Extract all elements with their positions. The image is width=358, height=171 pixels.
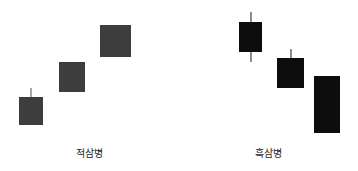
candlestick-pattern-figure: 적삼병 흑삼병 — [0, 0, 358, 171]
candle-three-black-crows-1 — [239, 12, 262, 62]
pattern-label-three-white-soldiers: 적삼병 — [0, 147, 179, 160]
candle-three-black-crows-2 — [277, 49, 304, 88]
pattern-group-three-black-crows — [0, 0, 358, 171]
candle-body — [314, 76, 340, 133]
candle-three-black-crows-3 — [314, 76, 340, 133]
candle-body — [277, 58, 304, 88]
pattern-label-three-black-crows: 흑삼병 — [179, 147, 358, 160]
candle-body — [239, 22, 262, 52]
